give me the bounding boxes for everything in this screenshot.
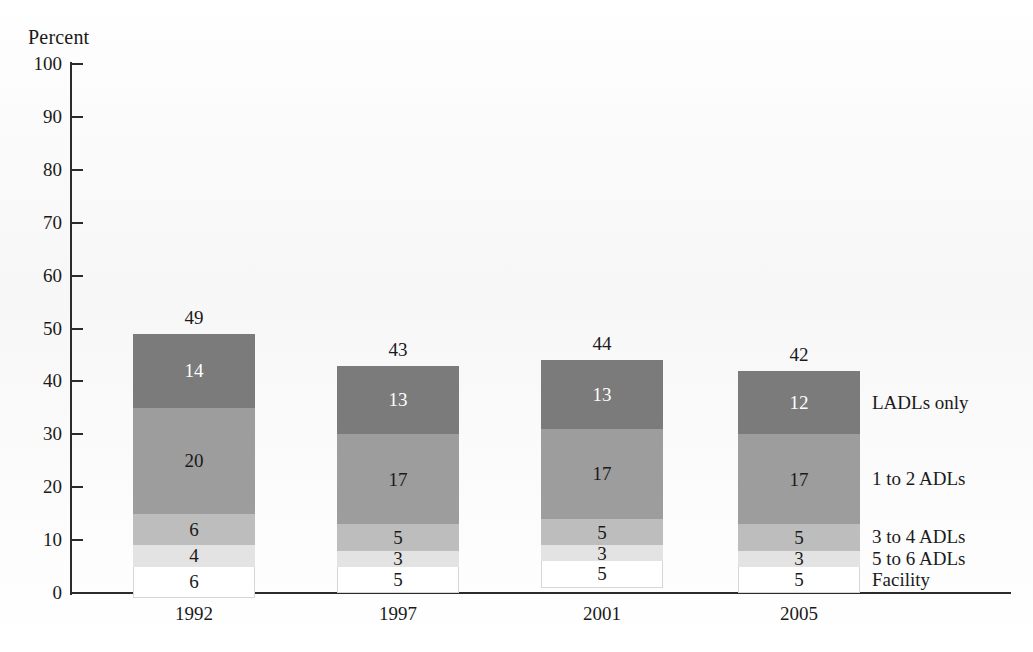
bar-segment-1997-5-to-6-adls[interactable]: 3: [337, 551, 459, 567]
y-axis-tick-100: [70, 63, 83, 65]
bar-segment-2001-facility[interactable]: 5: [541, 561, 663, 587]
legend-label-1-to-2-adls: 1 to 2 ADLs: [872, 469, 965, 488]
y-axis-tick-label-100: 100: [10, 54, 62, 73]
bar-segment-value: 14: [185, 361, 204, 380]
x-axis-tick-label-1992: 1992: [133, 604, 255, 623]
y-axis-tick-0: [70, 592, 83, 594]
bar-segment-2001-5-to-6-adls[interactable]: 3: [541, 545, 663, 561]
x-axis-tick-label-2005: 2005: [738, 604, 860, 623]
bar-total-label-1992: 49: [133, 308, 255, 327]
y-axis-tick-label-70: 70: [10, 213, 62, 232]
bar-segment-1997-1-to-2-adls[interactable]: 17: [337, 434, 459, 524]
bar-segment-value: 6: [189, 572, 199, 591]
bar-segment-value: 13: [593, 385, 612, 404]
legend-label-ladls-only: LADLs only: [872, 393, 969, 412]
bar-segment-value: 5: [393, 570, 403, 589]
y-axis-title: Percent: [28, 26, 89, 49]
bar-segment-value: 5: [393, 528, 403, 547]
bar-segment-value: 5: [597, 523, 607, 542]
y-axis-tick-70: [70, 222, 83, 224]
bar-segment-1992-3-to-4-adls[interactable]: 6: [133, 514, 255, 546]
y-axis-tick-90: [70, 116, 83, 118]
bar-segment-value: 5: [597, 564, 607, 583]
bar-total-label-2005: 42: [738, 345, 860, 364]
bar-segment-value: 20: [185, 451, 204, 470]
y-axis-tick-label-30: 30: [10, 424, 62, 443]
bar-segment-value: 17: [790, 470, 809, 489]
y-axis-tick-20: [70, 486, 83, 488]
bar-1997[interactable]: 1317535: [337, 366, 459, 593]
x-axis-tick-label-1997: 1997: [337, 604, 459, 623]
y-axis-tick-label-40: 40: [10, 371, 62, 390]
bar-total-label-1997: 43: [337, 340, 459, 359]
y-axis-tick-label-0: 0: [10, 583, 62, 602]
bar-segment-value: 17: [593, 464, 612, 483]
bar-segment-1997-facility[interactable]: 5: [337, 567, 459, 593]
stacked-bar-chart-figure: Percent 0102030405060708090100 142064649…: [0, 0, 1033, 652]
bar-segment-1992-facility[interactable]: 6: [133, 567, 255, 599]
y-axis-tick-50: [70, 328, 83, 330]
bar-segment-value: 3: [393, 549, 403, 568]
bar-total-label-2001: 44: [541, 334, 663, 353]
y-axis-tick-label-90: 90: [10, 107, 62, 126]
bar-segment-2005-ladls-only[interactable]: 12: [738, 371, 860, 434]
y-axis-tick-10: [70, 539, 83, 541]
bar-segment-2005-1-to-2-adls[interactable]: 17: [738, 434, 860, 524]
bar-segment-1997-ladls-only[interactable]: 13: [337, 366, 459, 435]
bar-segment-value: 12: [790, 393, 809, 412]
bar-segment-value: 3: [794, 549, 804, 568]
y-axis-tick-label-80: 80: [10, 160, 62, 179]
bar-segment-value: 4: [189, 546, 199, 565]
x-axis-tick-label-2001: 2001: [541, 604, 663, 623]
bar-2005[interactable]: 1217535: [738, 371, 860, 593]
bar-segment-2005-facility[interactable]: 5: [738, 567, 860, 593]
y-axis-tick-label-10: 10: [10, 530, 62, 549]
y-axis-tick-label-20: 20: [10, 477, 62, 496]
bar-segment-2005-5-to-6-adls[interactable]: 3: [738, 551, 860, 567]
legend-label-5-to-6-adls: 5 to 6 ADLs: [872, 549, 965, 568]
bar-segment-1992-ladls-only[interactable]: 14: [133, 334, 255, 408]
bar-segment-value: 3: [597, 544, 607, 563]
bar-2001[interactable]: 1317535: [541, 360, 663, 593]
bar-segment-value: 5: [794, 570, 804, 589]
bar-1992[interactable]: 1420646: [133, 334, 255, 593]
bar-segment-2005-3-to-4-adls[interactable]: 5: [738, 524, 860, 550]
legend-label-facility: Facility: [872, 570, 930, 589]
bar-segment-1992-1-to-2-adls[interactable]: 20: [133, 408, 255, 514]
bar-segment-1992-5-to-6-adls[interactable]: 4: [133, 545, 255, 566]
y-axis-tick-30: [70, 433, 83, 435]
y-axis-tick-80: [70, 169, 83, 171]
y-axis-tick-label-50: 50: [10, 319, 62, 338]
bar-segment-value: 17: [389, 470, 408, 489]
bar-segment-value: 13: [389, 390, 408, 409]
legend-label-3-to-4-adls: 3 to 4 ADLs: [872, 527, 965, 546]
bar-segment-value: 5: [794, 528, 804, 547]
bar-segment-2001-3-to-4-adls[interactable]: 5: [541, 519, 663, 545]
y-axis-tick-40: [70, 380, 83, 382]
bar-segment-1997-3-to-4-adls[interactable]: 5: [337, 524, 459, 550]
bar-segment-value: 6: [189, 520, 199, 539]
y-axis-tick-label-60: 60: [10, 266, 62, 285]
bar-segment-2001-ladls-only[interactable]: 13: [541, 360, 663, 429]
bar-segment-2001-1-to-2-adls[interactable]: 17: [541, 429, 663, 519]
y-axis-tick-60: [70, 275, 83, 277]
